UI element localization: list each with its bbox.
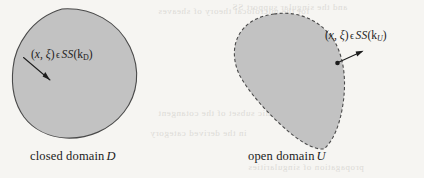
membership-icon: ϵ (348, 30, 355, 41)
label-arg-close: ) (89, 48, 93, 60)
label-ss-kD: (x, ξ)ϵSS(kD) (31, 49, 93, 62)
caption-text: open domain (248, 149, 315, 163)
caption-open-domain: open domainU (248, 149, 326, 164)
caption-symbol: U (315, 149, 326, 163)
boundary-point-marker (335, 61, 340, 66)
caption-symbol: D (105, 149, 116, 163)
outward-covector-arrow (338, 51, 364, 63)
label-operator-ss: SS (62, 48, 74, 60)
caption-text: closed domain (30, 149, 105, 163)
closed-domain-blob (12, 9, 136, 138)
caption-closed-domain: closed domainD (30, 149, 116, 164)
label-operator-ss: SS (356, 29, 368, 41)
label-ss-kU: (x, ξ)ϵSS(kU) (325, 30, 387, 43)
label-arg-close: ) (383, 29, 387, 41)
panel-closed-domain: (x, ξ)ϵSS(kD) closed domainD (0, 0, 212, 178)
figure-canvas: for the microlocal theory of sheaves and… (0, 0, 424, 178)
membership-icon: ϵ (54, 49, 61, 60)
panel-open-domain: (x, ξ)ϵSS(kU) open domainU (212, 0, 424, 178)
